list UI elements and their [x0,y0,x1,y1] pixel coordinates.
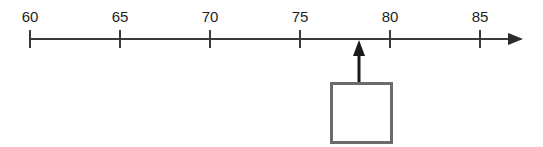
axis-tick-label-75: 75 [292,8,309,25]
answer-box[interactable] [332,84,392,143]
axis-tick-label-65: 65 [112,8,129,25]
axis-tick-label-60: 60 [22,8,39,25]
axis-tick-label-70: 70 [202,8,219,25]
pointer-arrowhead-icon [353,40,365,56]
axis-tick-label-85: 85 [472,8,489,25]
axis-arrowhead-icon [508,33,523,45]
number-line-figure: 60 65 70 75 80 85 [0,0,543,147]
axis-tick-label-80: 80 [382,8,399,25]
number-line-svg: 60 65 70 75 80 85 [0,0,543,147]
